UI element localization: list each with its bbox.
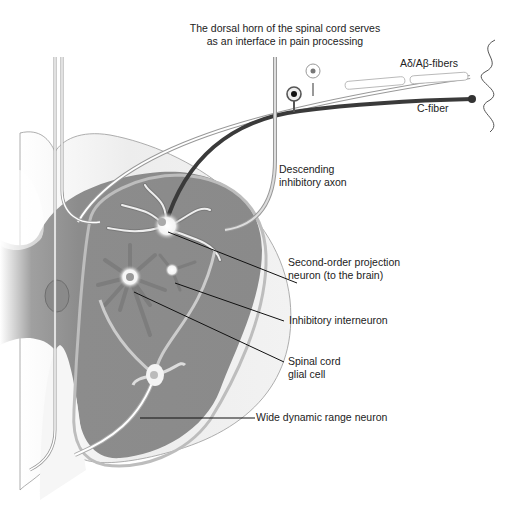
label-descending-line-1: Descending <box>279 163 347 176</box>
label-projection-line-1: Second-order projection <box>288 256 400 269</box>
label-wdr-neuron: Wide dynamic range neuron <box>256 411 387 424</box>
skin-receptor-endings <box>481 40 495 132</box>
label-descending-axon: Descending inhibitory axon <box>279 163 347 189</box>
diagram-title: The dorsal horn of the spinal cord serve… <box>140 22 430 48</box>
title-line-1: The dorsal horn of the spinal cord serve… <box>140 22 430 35</box>
label-interneuron: Inhibitory interneuron <box>289 314 388 327</box>
label-projection-neuron: Second-order projection neuron (to the b… <box>288 256 400 282</box>
label-a-fibers: Aδ/Aβ-fibers <box>400 57 458 70</box>
label-glial-line-2: glial cell <box>288 368 341 381</box>
title-line-2: as an interface in pain processing <box>140 35 430 48</box>
label-glial-line-1: Spinal cord <box>288 355 341 368</box>
label-c-fiber: C-fiber <box>417 102 449 115</box>
dorsal-horn-diagram: The dorsal horn of the spinal cord serve… <box>0 0 507 507</box>
label-descending-line-2: inhibitory axon <box>279 176 347 189</box>
label-glial-cell: Spinal cord glial cell <box>288 355 341 381</box>
label-projection-line-2: neuron (to the brain) <box>288 269 400 282</box>
diagram-canvas <box>0 0 507 507</box>
